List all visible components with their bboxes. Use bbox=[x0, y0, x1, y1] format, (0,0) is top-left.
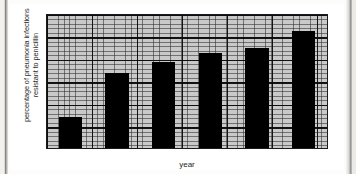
bar-chart: percentage of pneumonia infections resis… bbox=[10, 4, 344, 170]
y-axis-title: percentage of pneumonia infections resis… bbox=[22, 0, 40, 132]
y-axis-tick-mark bbox=[46, 103, 47, 104]
y-axis-tick-mark bbox=[46, 14, 47, 15]
page-edge-right bbox=[346, 0, 356, 174]
bar-1994 bbox=[152, 62, 175, 148]
y-axis-tick-mark bbox=[46, 147, 47, 148]
y-axis-tick-mark bbox=[46, 81, 47, 82]
scanned-page: percentage of pneumonia infections resis… bbox=[0, 0, 356, 174]
y-axis-tick-mark bbox=[46, 125, 47, 126]
x-axis-title: year bbox=[46, 160, 328, 169]
bar-1996 bbox=[245, 48, 268, 148]
y-axis-tick-mark bbox=[46, 37, 47, 38]
y-axis-tick-mark bbox=[46, 59, 47, 60]
bar-1992 bbox=[59, 117, 82, 148]
bar-1997 bbox=[292, 31, 315, 148]
bars-layer bbox=[47, 15, 327, 148]
plot-area: 051015202530199219931994199519961997 bbox=[46, 14, 328, 149]
bar-1995 bbox=[199, 53, 222, 148]
bar-1993 bbox=[105, 73, 128, 148]
page-edge-left bbox=[0, 0, 8, 174]
